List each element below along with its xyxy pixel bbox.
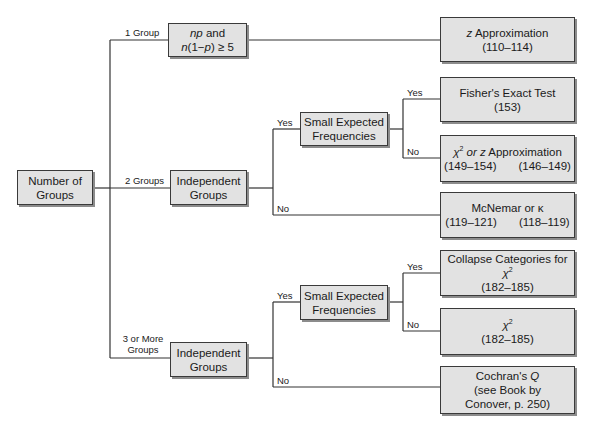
edge-label-1-group: 1 Group bbox=[125, 27, 159, 38]
node-text: Groups bbox=[36, 188, 74, 202]
node-fishers-exact-test: Fisher's Exact Test (153) bbox=[440, 77, 575, 122]
superscript: 2 bbox=[509, 266, 513, 273]
edge-label-no: No bbox=[277, 203, 289, 214]
node-small-expected-frequencies-3: Small Expected Frequencies bbox=[300, 285, 388, 320]
node-text: np and bbox=[190, 26, 225, 40]
node-small-expected-frequencies-2: Small Expected Frequencies bbox=[300, 112, 388, 146]
page-ref: (182–185) bbox=[481, 332, 533, 346]
edge-label-no: No bbox=[277, 375, 289, 386]
edge-label-yes: Yes bbox=[407, 261, 423, 272]
node-text: Collapse Categories for χ2 bbox=[441, 252, 574, 280]
edge-label-no: No bbox=[407, 146, 419, 157]
superscript: 2 bbox=[509, 318, 513, 325]
page-refs: (119–121)(118–119) bbox=[445, 215, 569, 229]
node-text: z Approximation bbox=[467, 26, 549, 40]
node-text: ) ≥ 5 bbox=[211, 41, 234, 53]
edge-label-line: 3 or More bbox=[118, 333, 168, 344]
node-independent-groups-3: Independent Groups bbox=[170, 342, 247, 377]
node-text: n(1−p) ≥ 5 bbox=[181, 40, 234, 54]
page-ref: (153) bbox=[494, 100, 521, 114]
node-text: Frequencies bbox=[312, 129, 375, 143]
node-text: Groups bbox=[190, 188, 228, 202]
node-text: Fisher's Exact Test bbox=[460, 86, 556, 100]
edge-label-yes: Yes bbox=[277, 290, 293, 301]
node-z-approximation: z Approximation (110–114) bbox=[440, 17, 575, 62]
node-number-of-groups: Number of Groups bbox=[17, 170, 93, 205]
math-var: np bbox=[190, 27, 203, 39]
node-text: Small Expected bbox=[304, 115, 384, 129]
node-chi-square: χ2 (182–185) bbox=[440, 308, 575, 355]
node-text: Frequencies bbox=[312, 303, 375, 317]
edge-label-yes: Yes bbox=[277, 117, 293, 128]
node-chi-or-z-approximation: χ2 or z Approximation (149–154)(146–149) bbox=[440, 135, 575, 182]
edge-label-yes: Yes bbox=[407, 87, 423, 98]
node-text: Collapse Categories for bbox=[447, 253, 567, 265]
math-var: Q bbox=[530, 370, 539, 382]
node-text: Approximation bbox=[472, 27, 548, 39]
node-text: Independent bbox=[177, 174, 241, 188]
page-ref: (110–114) bbox=[482, 40, 533, 54]
node-text: Groups bbox=[190, 360, 228, 374]
node-text: Small Expected bbox=[304, 289, 384, 303]
node-text: Independent bbox=[177, 346, 241, 360]
edge-label-line: Groups bbox=[118, 344, 168, 355]
node-independent-groups-2: Independent Groups bbox=[170, 170, 247, 205]
node-text: Approximation bbox=[486, 146, 562, 158]
node-mcnemar-or-kappa: McNemar or κ (119–121)(118–119) bbox=[440, 192, 575, 238]
node-text: χ2 or z Approximation bbox=[453, 145, 562, 159]
node-text: (1− bbox=[188, 41, 205, 53]
math-var: or z bbox=[463, 146, 485, 158]
page-ref: (119–121) bbox=[445, 215, 497, 229]
page-ref: (149–154) bbox=[444, 159, 496, 173]
edge-label-2-groups: 2 Groups bbox=[125, 175, 164, 186]
node-text: and bbox=[203, 27, 225, 39]
node-np-condition: np and n(1−p) ≥ 5 bbox=[168, 23, 247, 57]
node-text: (see Book by bbox=[474, 383, 541, 397]
node-text: Cochran's bbox=[476, 370, 531, 382]
node-text: χ2 bbox=[502, 318, 512, 332]
page-ref: (146–149) bbox=[519, 159, 571, 173]
page-ref: (182–185) bbox=[481, 280, 533, 294]
page-refs: (149–154)(146–149) bbox=[444, 159, 571, 173]
node-collapse-categories: Collapse Categories for χ2 (182–185) bbox=[440, 250, 575, 296]
edge-label-3-or-more-groups: 3 or More Groups bbox=[118, 333, 168, 355]
node-cochrans-q: Cochran's Q (see Book by Conover, p. 250… bbox=[440, 366, 575, 414]
node-text: McNemar or κ bbox=[471, 201, 543, 215]
edge-label-no: No bbox=[407, 319, 419, 330]
node-text: Cochran's Q bbox=[476, 369, 540, 383]
node-text: Conover, p. 250) bbox=[465, 397, 550, 411]
node-text: Number of bbox=[28, 174, 82, 188]
page-ref: (118–119) bbox=[519, 215, 570, 229]
